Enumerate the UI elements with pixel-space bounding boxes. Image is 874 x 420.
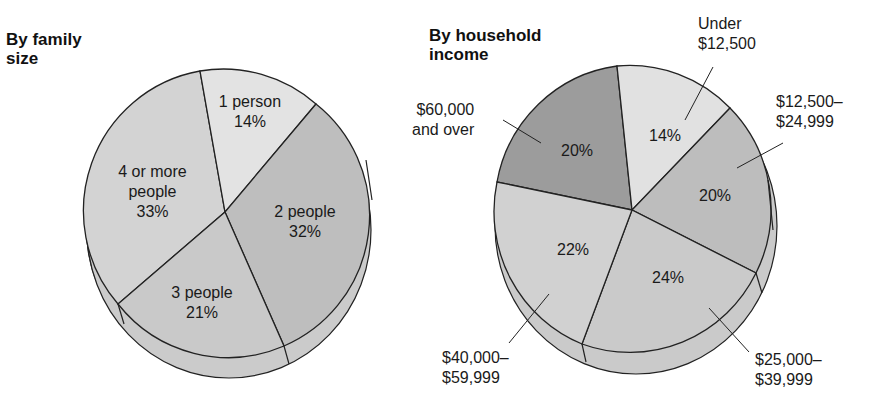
callout-line: $25,000–: [755, 350, 822, 370]
value-25000-39999: 24%: [643, 268, 693, 288]
callout-line: $40,000–: [442, 348, 509, 368]
label-line: 33%: [100, 202, 205, 222]
label-1-person: 1 person 14%: [205, 92, 295, 132]
value-60000-and-over: 20%: [552, 141, 602, 161]
callout-line: $12,500–: [776, 92, 843, 112]
label-line: 32%: [255, 222, 355, 242]
value-40000-59999: 22%: [548, 240, 598, 260]
household-income-pie: [494, 65, 783, 374]
label-line: people: [100, 182, 205, 202]
label-line: 4 or more: [100, 162, 205, 182]
callout-line: $12,500: [698, 34, 756, 54]
value-12500-24999: 20%: [690, 186, 740, 206]
callout-60000-and-over: $60,000 and over: [412, 100, 474, 140]
callout-line: $24,999: [776, 112, 843, 132]
callout-line: Under: [698, 14, 756, 34]
label-line: 3 people: [152, 283, 252, 303]
label-4-or-more-people: 4 or more people 33%: [100, 162, 205, 222]
title-line: income: [429, 45, 541, 64]
label-line: 1 person: [205, 92, 295, 112]
title-line: size: [6, 49, 82, 68]
callout-line: $59,999: [442, 368, 509, 388]
value-under-12500: 14%: [640, 126, 690, 146]
title-line: By household: [429, 26, 541, 45]
callout-line: $39,999: [755, 370, 822, 390]
label-3-people: 3 people 21%: [152, 283, 252, 323]
label-line: 2 people: [255, 202, 355, 222]
chart-title-household-income: By household income: [429, 26, 541, 64]
label-line: 14%: [205, 112, 295, 132]
label-line: 21%: [152, 303, 252, 323]
title-line: By family: [6, 30, 82, 49]
callout-line: and over: [412, 120, 474, 140]
callout-line: $60,000: [412, 100, 474, 120]
callout-12500-24999: $12,500– $24,999: [776, 92, 843, 132]
chart-title-family-size: By family size: [6, 30, 82, 68]
callout-40000-59999: $40,000– $59,999: [442, 348, 509, 388]
label-2-people: 2 people 32%: [255, 202, 355, 242]
callout-25000-39999: $25,000– $39,999: [755, 350, 822, 390]
callout-under-12500: Under $12,500: [698, 14, 756, 54]
